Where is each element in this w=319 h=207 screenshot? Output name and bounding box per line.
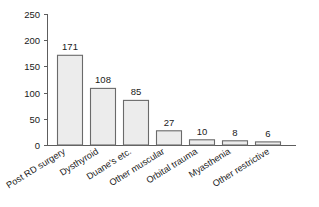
- bar-value-label: 171: [62, 41, 78, 52]
- chart-plot-area: 250 200 150 100 50 0 171 108 85 27 10 8 …: [0, 0, 319, 207]
- bar-value-label: 8: [232, 127, 237, 138]
- bar: [157, 131, 182, 145]
- y-tick-label: 100: [24, 88, 40, 99]
- bar-chart-figure: 250 200 150 100 50 0 171 108 85 27 10 8 …: [0, 0, 319, 207]
- bar-value-label: 6: [265, 128, 270, 139]
- y-axis-tick-labels: 250 200 150 100 50 0: [24, 9, 40, 151]
- bar-value-label: 85: [131, 86, 142, 97]
- y-tick-label: 250: [24, 9, 40, 20]
- bar-value-label: 27: [164, 117, 175, 128]
- bar: [190, 140, 215, 145]
- bar: [58, 55, 83, 145]
- bar-value-label: 10: [197, 126, 208, 137]
- y-tick-label: 150: [24, 61, 40, 72]
- bar: [223, 141, 248, 145]
- bar: [124, 100, 149, 145]
- bar-value-label: 108: [95, 74, 111, 85]
- bar-series: [58, 55, 281, 145]
- bar: [256, 142, 281, 145]
- bar: [91, 88, 116, 145]
- y-tick-label: 50: [29, 114, 40, 125]
- y-tick-label: 0: [35, 140, 40, 151]
- x-axis-category-labels: Post RD surgery Dysthyroid Duane's etc. …: [5, 146, 271, 191]
- y-tick-label: 200: [24, 35, 40, 46]
